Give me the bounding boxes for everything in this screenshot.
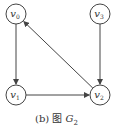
edge-v2-v0 [24, 22, 93, 88]
graph-diagram: v0v3v1v2 (b) 图 G2 [0, 0, 113, 130]
node-v0: v0 [6, 4, 26, 24]
caption-sub: 2 [74, 119, 78, 127]
node-v1: v1 [6, 85, 26, 105]
node-v3: v3 [90, 4, 110, 24]
caption-var: G [66, 113, 74, 124]
caption-prefix: (b) 图 [35, 113, 66, 124]
figure-caption: (b) 图 G2 [0, 110, 113, 127]
node-v2: v2 [90, 85, 110, 105]
